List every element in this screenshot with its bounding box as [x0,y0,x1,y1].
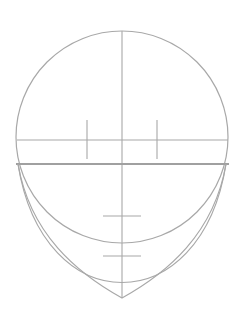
diagram-svg [0,0,245,322]
face-proportion-diagram [0,0,245,322]
